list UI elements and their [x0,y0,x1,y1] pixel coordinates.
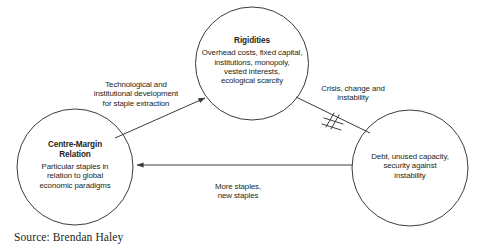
circle-rigidities [196,7,309,120]
source-caption: Source: Brendan Haley [14,231,123,243]
break-mark-icon [322,113,343,130]
circle-centre-margin [17,109,133,225]
arrow-technological [115,98,205,138]
circle-debt [352,110,468,226]
staples-cycle-figure: Rigidities Overhead costs, fixed capital… [0,0,486,250]
diagram-canvas [0,0,486,250]
